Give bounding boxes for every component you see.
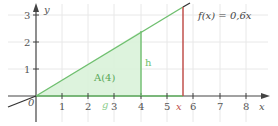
- x-tick-8: 8: [243, 101, 249, 112]
- x-axis-label: x: [259, 101, 265, 112]
- x-tick-3: 3: [111, 101, 117, 112]
- y-tick-1: 1: [24, 64, 30, 75]
- x-tick-7: 7: [217, 101, 223, 112]
- coordinate-diagram: 1 2 3 4 5 6 7 8 1 2 3 0 x y f(x) = 0,6x …: [0, 0, 278, 126]
- base-label: g: [102, 99, 108, 110]
- x-tick-6: 6: [190, 101, 196, 112]
- origin-label: 0: [28, 97, 35, 108]
- x-tick-1: 1: [59, 101, 65, 112]
- function-label: f(x) = 0,6x: [197, 10, 252, 21]
- x-axis-arrow-icon: [261, 93, 270, 99]
- x-tick-2: 2: [85, 101, 91, 112]
- y-tick-3: 3: [24, 10, 30, 21]
- y-tick-2: 2: [24, 37, 30, 48]
- variable-x-label: x: [176, 101, 182, 112]
- y-axis-arrow-icon: [33, 3, 39, 12]
- x-tick-4: 4: [138, 101, 144, 112]
- function-line-extension: [183, 3, 190, 7]
- area-label: A(4): [93, 72, 115, 83]
- y-axis-label: y: [43, 4, 50, 15]
- height-label: h: [145, 57, 152, 68]
- x-tick-5: 5: [164, 101, 170, 112]
